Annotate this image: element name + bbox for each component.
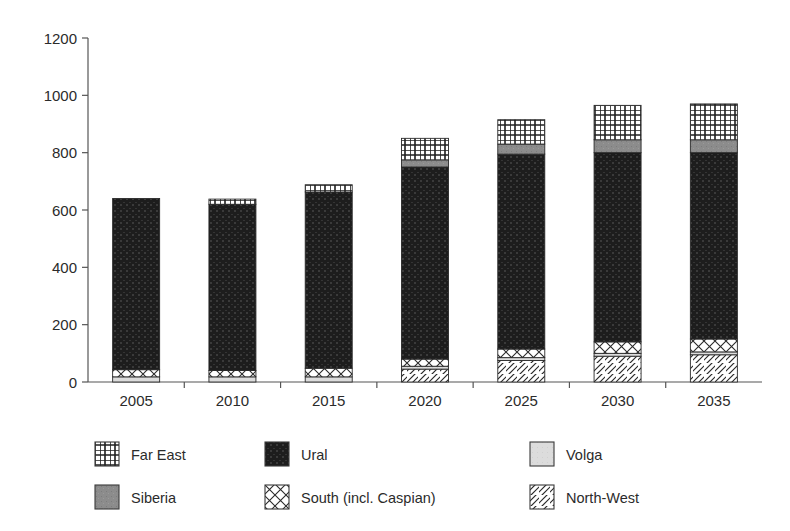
legend-swatch (95, 442, 119, 466)
legend-label: Volga (566, 447, 603, 463)
bar-segment (594, 140, 641, 153)
bar-column (209, 199, 256, 382)
legend-label: Ural (301, 447, 328, 463)
bar-segment (594, 105, 641, 139)
bar-segment (402, 359, 449, 366)
bar-column (305, 185, 352, 382)
y-axis-tick-label: 0 (69, 374, 77, 391)
bar-segment (305, 368, 352, 377)
x-axis-tick-label: 2015 (312, 392, 345, 409)
bar-segment (690, 104, 737, 140)
y-axis-tick-label: 600 (52, 202, 77, 219)
bar-segment (113, 377, 160, 382)
bar-segment (305, 185, 352, 192)
bar-segment (498, 361, 545, 383)
bar-segment (498, 144, 545, 154)
legend-label: Siberia (131, 490, 177, 506)
x-axis-tick-label: 2035 (697, 392, 730, 409)
bar-column (113, 199, 160, 382)
bar-segment (498, 349, 545, 358)
bar-segment (690, 339, 737, 352)
bar-segment (402, 369, 449, 382)
chart-canvas: 020040060080010001200 200520102015202020… (0, 0, 790, 531)
bar-segment (113, 370, 160, 377)
bar-column (402, 138, 449, 382)
bar-segment (402, 138, 449, 160)
bar-segment (113, 199, 160, 370)
bar-segment (594, 356, 641, 382)
bar-segment (498, 120, 545, 144)
bar-column (690, 104, 737, 382)
bar-segment (209, 199, 256, 204)
legend-swatch (95, 485, 119, 509)
bar-segment (594, 153, 641, 342)
bar-segment (594, 342, 641, 353)
bar-segment (209, 371, 256, 377)
bar-segment (209, 377, 256, 382)
bar-segment (305, 192, 352, 368)
x-axis-tick-label: 2030 (601, 392, 634, 409)
y-axis: 020040060080010001200 (44, 30, 88, 391)
legend-swatch (530, 442, 554, 466)
bar-segment (402, 160, 449, 167)
legend-swatch (530, 485, 554, 509)
bar-segment (690, 140, 737, 153)
bar-segment (690, 355, 737, 382)
bar-segment (498, 154, 545, 349)
stacked-bar-chart: 020040060080010001200 200520102015202020… (0, 0, 790, 531)
chart-legend: Far EastUralVolgaSiberiaSouth (incl. Cas… (95, 442, 639, 509)
legend-swatch (265, 485, 289, 509)
bar-segment (402, 167, 449, 359)
y-axis-tick-label: 1200 (44, 30, 77, 47)
y-axis-tick-label: 200 (52, 316, 77, 333)
bar-segment (690, 153, 737, 339)
legend-label: South (incl. Caspian) (301, 490, 436, 506)
x-axis-tick-label: 2020 (408, 392, 441, 409)
bars-area (113, 104, 738, 382)
legend-label: Far East (131, 447, 186, 463)
x-axis: 2005201020152020202520302035 (88, 382, 762, 409)
legend-swatch (265, 442, 289, 466)
legend-label: North-West (566, 490, 639, 506)
x-axis-tick-label: 2025 (505, 392, 538, 409)
y-axis-tick-label: 800 (52, 144, 77, 161)
x-axis-tick-label: 2005 (119, 392, 152, 409)
bar-column (594, 105, 641, 382)
y-axis-tick-label: 1000 (44, 87, 77, 104)
bar-segment (305, 377, 352, 382)
bar-column (498, 120, 545, 382)
y-axis-tick-label: 400 (52, 259, 77, 276)
bar-segment (209, 204, 256, 370)
x-axis-tick-label: 2010 (216, 392, 249, 409)
